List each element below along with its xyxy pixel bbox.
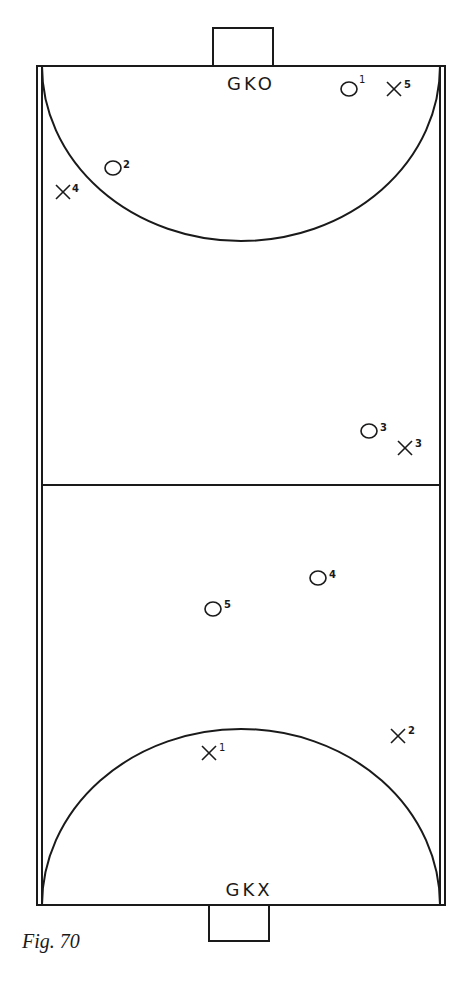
player-x1: 1: [202, 742, 225, 760]
player-o-marker-icon: [310, 571, 326, 585]
player-o4: 4: [310, 569, 336, 585]
player-o-marker-icon: [105, 161, 121, 175]
figure-caption: Fig. 70: [22, 930, 80, 953]
player-x5: 5: [387, 79, 411, 96]
player-number: 4: [329, 569, 336, 580]
top-goal: [213, 28, 273, 66]
player-o2: 2: [105, 159, 130, 175]
player-number: 2: [408, 725, 415, 736]
player-o3: 3: [361, 422, 387, 438]
player-o-marker-icon: [205, 602, 221, 616]
goalkeeper-bottom-label: GKX: [225, 879, 272, 900]
player-number: 3: [380, 422, 387, 433]
bottom-goal: [209, 905, 269, 941]
player-number: 1: [359, 74, 365, 85]
player-number: 3: [415, 438, 422, 449]
player-number: 1: [219, 742, 225, 753]
handball-court-diagram: GKO GKX 1 2 3 4 5 1 2: [0, 0, 466, 984]
player-number: 4: [72, 183, 79, 194]
player-number: 2: [123, 159, 130, 170]
player-x4: 4: [56, 183, 79, 199]
player-x2: 2: [391, 725, 415, 743]
player-o-marker-icon: [341, 82, 357, 96]
goalkeeper-top-label: GKO: [227, 73, 275, 94]
player-o1: 1: [341, 74, 365, 96]
player-number: 5: [404, 79, 411, 90]
player-o-marker-icon: [361, 424, 377, 438]
player-o5: 5: [205, 599, 231, 616]
player-x3: 3: [398, 438, 422, 455]
player-number: 5: [224, 599, 231, 610]
